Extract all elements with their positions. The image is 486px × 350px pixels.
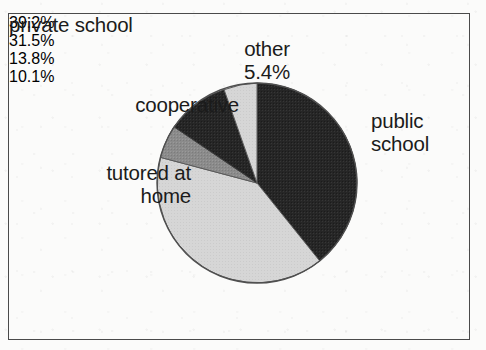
- pie-label-cooperative: cooperative: [61, 94, 239, 117]
- pie-label-other: other 5.4%: [205, 38, 329, 84]
- pie-label-public-school: public school: [371, 110, 486, 156]
- pie-label-private-school: private school: [9, 14, 133, 37]
- pie-label-tutored-at-home: tutored at home: [39, 162, 191, 208]
- pie-chart: other 5.4% cooperative tutored at home p…: [9, 14, 469, 339]
- pie-chart-screenshot: other 5.4% cooperative tutored at home p…: [0, 0, 486, 350]
- chart-frame-border: other 5.4% cooperative tutored at home p…: [8, 13, 470, 340]
